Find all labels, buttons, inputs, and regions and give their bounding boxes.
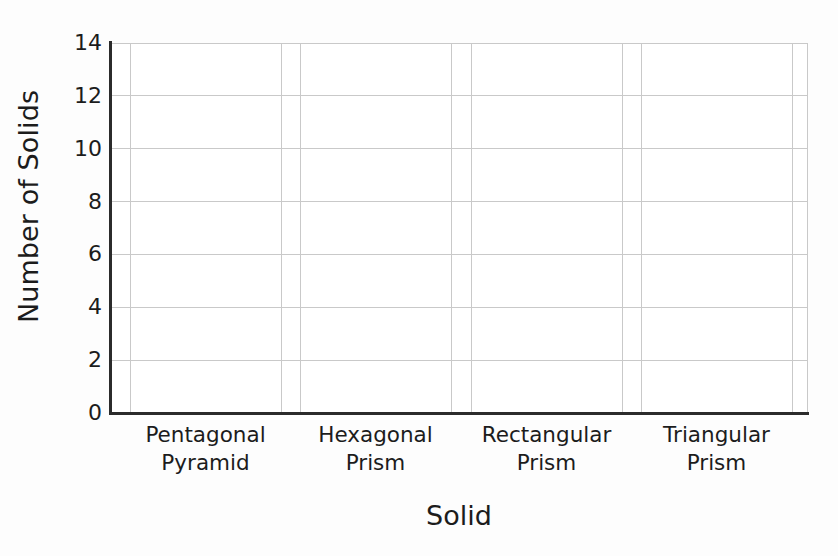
y-axis-tick-label: 4 (58, 296, 102, 318)
y-axis-tick-label: 2 (58, 349, 102, 371)
x-axis-tick-labels: PentagonalPyramidHexagonalPrismRectangul… (110, 421, 808, 483)
y-axis-line (109, 41, 112, 415)
y-axis-tick-label: 10 (58, 138, 102, 160)
y-axis-title: Number of Solids (6, 0, 50, 413)
y-axis-tick-labels: 02468101214 (50, 0, 102, 556)
x-axis-line (109, 412, 809, 415)
x-axis-tick-label-line1: Triangular (607, 421, 827, 449)
y-axis-tick-label: 6 (58, 243, 102, 265)
x-axis-title: Solid (110, 500, 808, 531)
y-axis-tick-label: 12 (58, 85, 102, 107)
x-axis-tick-label-line2: Prism (607, 449, 827, 477)
y-axis-tick-label: 14 (58, 32, 102, 54)
gridlines (110, 43, 808, 413)
y-axis-tick-label: 8 (58, 191, 102, 213)
bar-chart: Number of Solids 02468101214 PentagonalP… (0, 0, 838, 556)
plot-area (110, 43, 808, 413)
x-axis-tick-label: TriangularPrism (607, 421, 827, 476)
